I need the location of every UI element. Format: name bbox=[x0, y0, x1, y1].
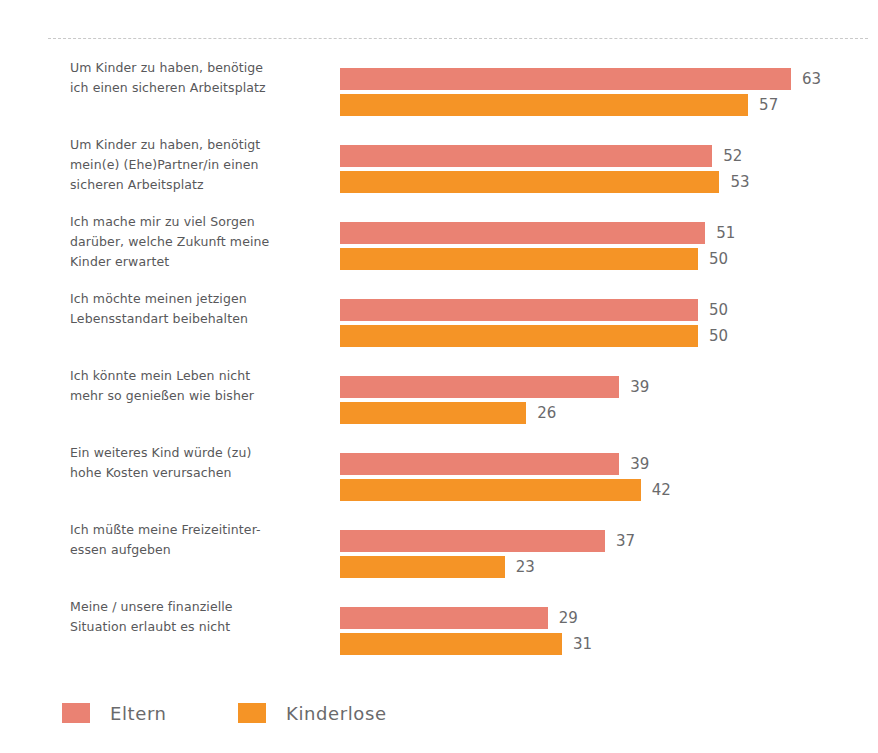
legend-swatch-kinderlose-icon bbox=[238, 703, 266, 723]
bar-row-kinderlose: 26 bbox=[340, 402, 860, 424]
chart-legend: Eltern Kinderlose bbox=[0, 700, 878, 740]
bar-group: 3926 bbox=[340, 366, 860, 422]
bar-value-label: 39 bbox=[630, 455, 649, 473]
bar-row-eltern: 29 bbox=[340, 607, 860, 629]
bar-eltern[interactable] bbox=[340, 222, 705, 244]
bar-value-label: 37 bbox=[616, 532, 635, 550]
bar-value-label: 42 bbox=[652, 481, 671, 499]
chart-group: Ich müßte meine Freizeitinter- essen auf… bbox=[0, 520, 878, 580]
bar-row-eltern: 39 bbox=[340, 453, 860, 475]
bar-row-kinderlose: 57 bbox=[340, 94, 860, 116]
bar-kinderlose[interactable] bbox=[340, 479, 641, 501]
bar-eltern[interactable] bbox=[340, 530, 605, 552]
bar-kinderlose[interactable] bbox=[340, 94, 748, 116]
bar-row-kinderlose: 50 bbox=[340, 325, 860, 347]
chart-plot-area: Um Kinder zu haben, benötige ich einen s… bbox=[0, 58, 878, 674]
legend-item-eltern[interactable]: Eltern bbox=[62, 700, 167, 726]
bar-kinderlose[interactable] bbox=[340, 556, 505, 578]
chart-group: Um Kinder zu haben, benötige ich einen s… bbox=[0, 58, 878, 118]
chart-group: Ich mache mir zu viel Sorgen darüber, we… bbox=[0, 212, 878, 272]
bar-kinderlose[interactable] bbox=[340, 171, 719, 193]
bar-group: 5050 bbox=[340, 289, 860, 345]
bar-row-eltern: 50 bbox=[340, 299, 860, 321]
bar-eltern[interactable] bbox=[340, 376, 619, 398]
bar-value-label: 39 bbox=[630, 378, 649, 396]
bar-group: 6357 bbox=[340, 58, 860, 114]
category-label: Um Kinder zu haben, benötigt mein(e) (Eh… bbox=[70, 135, 325, 195]
bar-kinderlose[interactable] bbox=[340, 402, 526, 424]
chart-group: Ich möchte meinen jetzigen Lebensstandar… bbox=[0, 289, 878, 349]
bar-group: 5150 bbox=[340, 212, 860, 268]
top-dashed-divider bbox=[48, 38, 868, 39]
bar-value-label: 57 bbox=[759, 96, 778, 114]
bar-eltern[interactable] bbox=[340, 145, 712, 167]
chart-container: Um Kinder zu haben, benötige ich einen s… bbox=[0, 0, 878, 753]
bar-group: 3723 bbox=[340, 520, 860, 576]
bar-value-label: 50 bbox=[709, 301, 728, 319]
chart-group: Ein weiteres Kind würde (zu) hohe Kosten… bbox=[0, 443, 878, 503]
category-label: Ich müßte meine Freizeitinter- essen auf… bbox=[70, 520, 325, 560]
bar-value-label: 31 bbox=[573, 635, 592, 653]
bar-row-eltern: 51 bbox=[340, 222, 860, 244]
legend-item-kinderlose[interactable]: Kinderlose bbox=[238, 700, 387, 726]
chart-group: Meine / unsere finanzielle Situation erl… bbox=[0, 597, 878, 657]
chart-group: Um Kinder zu haben, benötigt mein(e) (Eh… bbox=[0, 135, 878, 195]
bar-row-kinderlose: 31 bbox=[340, 633, 860, 655]
bar-kinderlose[interactable] bbox=[340, 633, 562, 655]
bar-value-label: 50 bbox=[709, 327, 728, 345]
bar-group: 3942 bbox=[340, 443, 860, 499]
bar-eltern[interactable] bbox=[340, 453, 619, 475]
bar-group: 2931 bbox=[340, 597, 860, 653]
bar-value-label: 52 bbox=[723, 147, 742, 165]
bar-value-label: 29 bbox=[559, 609, 578, 627]
bar-row-eltern: 37 bbox=[340, 530, 860, 552]
bar-value-label: 23 bbox=[516, 558, 535, 576]
bar-eltern[interactable] bbox=[340, 607, 548, 629]
legend-swatch-eltern-icon bbox=[62, 703, 90, 723]
category-label: Ich könnte mein Leben nicht mehr so geni… bbox=[70, 366, 325, 406]
bar-row-kinderlose: 50 bbox=[340, 248, 860, 270]
bar-row-kinderlose: 42 bbox=[340, 479, 860, 501]
category-label: Meine / unsere finanzielle Situation erl… bbox=[70, 597, 325, 637]
category-label: Ich mache mir zu viel Sorgen darüber, we… bbox=[70, 212, 325, 272]
bar-row-eltern: 52 bbox=[340, 145, 860, 167]
legend-label-eltern: Eltern bbox=[110, 703, 167, 724]
bar-row-kinderlose: 23 bbox=[340, 556, 860, 578]
bar-row-kinderlose: 53 bbox=[340, 171, 860, 193]
chart-group: Ich könnte mein Leben nicht mehr so geni… bbox=[0, 366, 878, 426]
bar-value-label: 26 bbox=[537, 404, 556, 422]
category-label: Ich möchte meinen jetzigen Lebensstandar… bbox=[70, 289, 325, 329]
category-label: Ein weiteres Kind würde (zu) hohe Kosten… bbox=[70, 443, 325, 483]
bar-kinderlose[interactable] bbox=[340, 248, 698, 270]
bar-kinderlose[interactable] bbox=[340, 325, 698, 347]
bar-eltern[interactable] bbox=[340, 68, 791, 90]
category-label: Um Kinder zu haben, benötige ich einen s… bbox=[70, 58, 325, 98]
bar-value-label: 53 bbox=[730, 173, 749, 191]
legend-label-kinderlose: Kinderlose bbox=[286, 703, 387, 724]
bar-value-label: 50 bbox=[709, 250, 728, 268]
bar-group: 5253 bbox=[340, 135, 860, 191]
bar-row-eltern: 63 bbox=[340, 68, 860, 90]
bar-value-label: 63 bbox=[802, 70, 821, 88]
bar-eltern[interactable] bbox=[340, 299, 698, 321]
bar-value-label: 51 bbox=[716, 224, 735, 242]
bar-row-eltern: 39 bbox=[340, 376, 860, 398]
